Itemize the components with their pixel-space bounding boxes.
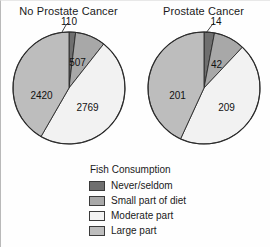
pie-graphic-no-prostate-cancer: 507 2769 2420 bbox=[10, 29, 128, 147]
legend-label-moderate-part: Moderate part bbox=[111, 210, 173, 221]
legend-item-large-part: Large part bbox=[89, 224, 219, 237]
pie-graphic-prostate-cancer: 42 209 201 bbox=[145, 29, 263, 147]
legend-label-never-seldom: Never/seldom bbox=[111, 180, 173, 191]
legend-swatch-never-seldom bbox=[89, 181, 105, 191]
pie-svg-right bbox=[145, 29, 263, 147]
legend-swatch-small-part bbox=[89, 196, 105, 206]
legend-swatch-large-part bbox=[89, 226, 105, 236]
legend-swatch-moderate-part bbox=[89, 211, 105, 221]
figure-frame: No Prostate Cancer 507 2769 2420 110 Pro… bbox=[0, 0, 270, 247]
slice-label-left-never-seldom: 110 bbox=[61, 16, 77, 27]
legend-label-large-part: Large part bbox=[111, 225, 157, 236]
legend-title: Fish Consumption bbox=[90, 164, 219, 176]
legend-item-never-seldom: Never/seldom bbox=[89, 179, 219, 192]
legend-item-moderate-part: Moderate part bbox=[89, 209, 219, 222]
legend-item-small-part: Small part of diet bbox=[89, 194, 219, 207]
legend: Fish Consumption Never/seldom Small part… bbox=[89, 164, 219, 239]
chart-title-prostate-cancer: Prostate Cancer bbox=[136, 5, 270, 18]
slice-label-right-never-seldom: 14 bbox=[210, 16, 221, 27]
pie-chart-no-prostate-cancer: No Prostate Cancer 507 2769 2420 110 bbox=[1, 1, 136, 166]
legend-label-small-part: Small part of diet bbox=[111, 195, 186, 206]
pie-chart-prostate-cancer: Prostate Cancer 42 209 201 14 bbox=[136, 1, 270, 166]
pie-svg-left bbox=[10, 29, 128, 147]
